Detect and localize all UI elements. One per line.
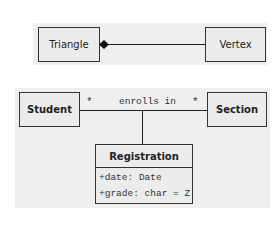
attribute-grade: +grade: char = Z xyxy=(96,186,192,202)
class-student-label: Student xyxy=(27,104,72,115)
class-vertex-label: Vertex xyxy=(219,39,251,50)
association-line xyxy=(80,110,207,111)
class-registration-header: Registration xyxy=(96,145,192,168)
class-registration[interactable]: Registration +date: Date +grade: char = … xyxy=(95,144,193,204)
class-section-label: Section xyxy=(216,104,258,115)
association-class-connector xyxy=(142,110,143,144)
composition-line xyxy=(108,44,205,45)
class-triangle[interactable]: Triangle xyxy=(38,27,100,62)
class-registration-label: Registration xyxy=(109,151,179,162)
class-vertex[interactable]: Vertex xyxy=(205,27,266,62)
composition-diamond-icon xyxy=(99,40,109,49)
association-name: enrolls in xyxy=(119,96,176,107)
attribute-date: +date: Date xyxy=(96,170,192,186)
class-registration-attributes: +date: Date +grade: char = Z xyxy=(96,168,192,202)
right-multiplicity: * xyxy=(192,96,199,108)
left-multiplicity: * xyxy=(86,96,93,108)
class-section[interactable]: Section xyxy=(207,92,267,127)
class-triangle-label: Triangle xyxy=(49,39,88,50)
class-student[interactable]: Student xyxy=(19,92,80,127)
